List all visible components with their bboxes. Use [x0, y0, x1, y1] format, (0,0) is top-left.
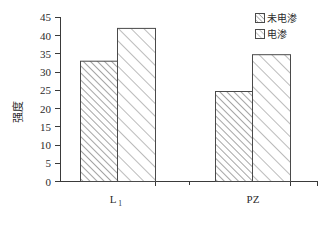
y-tick-label: 10 — [40, 139, 52, 151]
y-tick-label: 0 — [46, 176, 52, 188]
legend-swatch-fill — [256, 30, 264, 38]
bar-l1-series2[interactable] — [118, 28, 156, 181]
y-tick-label: 15 — [40, 121, 52, 133]
bar-pz-series1[interactable] — [216, 92, 253, 182]
bar-l1-series1[interactable] — [81, 61, 118, 181]
legend-swatch-fill — [256, 14, 264, 22]
y-tick-label: 25 — [40, 84, 52, 96]
legend-label-electroosmosis: 电渗 — [267, 28, 287, 40]
legend-entry-1[interactable]: 未电渗 — [256, 12, 298, 24]
x-tick-label-base: L — [110, 193, 117, 205]
legend-label-no-electroosmosis: 未电渗 — [267, 12, 297, 24]
chart-canvas: 45 40 35 30 25 20 15 10 5 0 强度 — [0, 0, 330, 230]
legend-entry-2[interactable]: 电渗 — [256, 28, 288, 40]
x-tick-label-subscript: 1 — [118, 199, 122, 208]
y-tick-label: 40 — [40, 30, 52, 42]
x-tick-label-pz: PZ — [247, 193, 260, 205]
bar-chart-figure: 45 40 35 30 25 20 15 10 5 0 强度 — [0, 0, 330, 230]
y-tick-label: 45 — [40, 11, 52, 23]
x-tick-label-base: PZ — [247, 193, 260, 205]
y-tick-label: 20 — [40, 103, 52, 115]
y-tick-label: 5 — [46, 157, 52, 169]
y-axis-title: 强度 — [11, 101, 25, 123]
bar-pz-series2[interactable] — [253, 55, 291, 182]
y-tick-label: 35 — [40, 48, 52, 60]
y-tick-label: 30 — [40, 66, 52, 78]
